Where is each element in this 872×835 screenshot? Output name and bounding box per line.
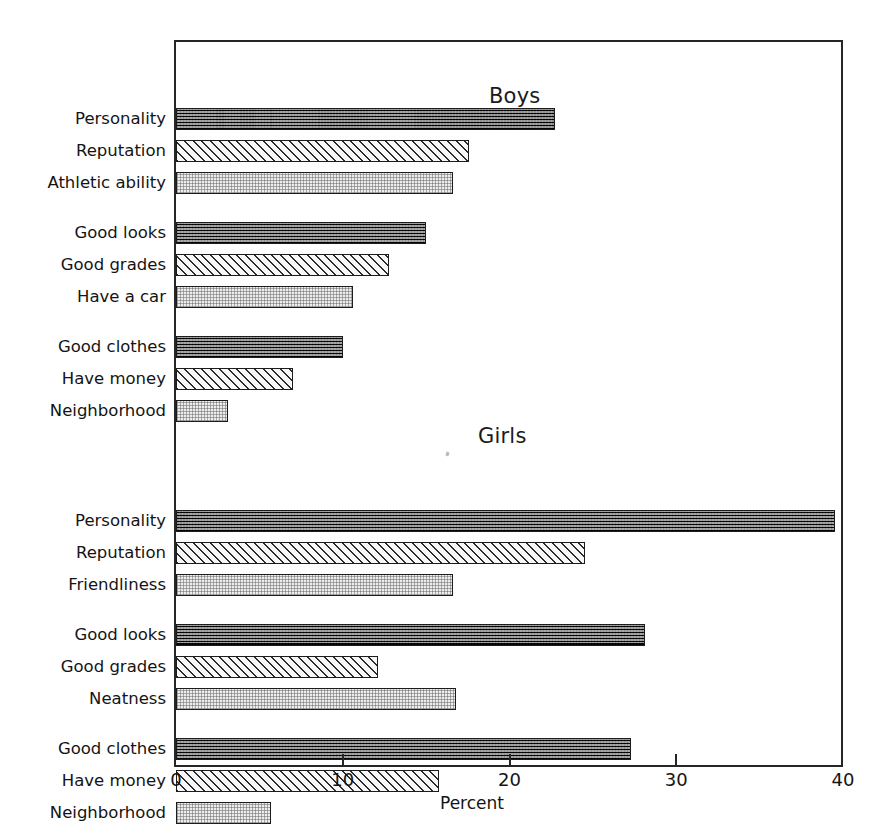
category-label: Personality xyxy=(6,109,174,129)
category-label: Good clothes xyxy=(6,337,174,357)
bar-girls-personality xyxy=(176,510,835,532)
bar-boys-reputation xyxy=(176,140,469,162)
x-axis-tick-label: 0 xyxy=(170,769,181,790)
bar-girls-good-grades xyxy=(176,656,378,678)
x-axis-tick-label: 40 xyxy=(832,769,855,790)
bar-girls-good-looks xyxy=(176,624,645,646)
bar-boys-athletic-ability xyxy=(176,172,453,194)
panel-title-boys: Boys xyxy=(489,84,540,108)
x-axis-title: Percent xyxy=(0,793,872,813)
bar-boys-good-grades xyxy=(176,254,389,276)
x-axis-tick xyxy=(509,754,511,767)
bar-boys-have-a-car xyxy=(176,286,353,308)
bar-chart: Boys Girls PersonalityReputationAthletic… xyxy=(0,0,872,835)
category-label: Athletic ability xyxy=(6,173,174,193)
category-label-column: PersonalityReputationAthletic abilityGoo… xyxy=(0,0,174,835)
x-axis-tick-label: 30 xyxy=(665,769,688,790)
bar-girls-friendliness xyxy=(176,574,453,596)
bar-boys-good-clothes xyxy=(176,336,343,358)
x-axis-title-text: Percent xyxy=(440,793,504,813)
category-label: Reputation xyxy=(6,141,174,161)
panel-title-girls: Girls xyxy=(478,424,527,448)
bar-girls-good-clothes xyxy=(176,738,631,760)
bar-girls-neatness xyxy=(176,688,456,710)
bar-girls-reputation xyxy=(176,542,585,564)
category-label: Have money xyxy=(6,369,174,389)
category-label: Good grades xyxy=(6,255,174,275)
category-label: Neighborhood xyxy=(6,401,174,421)
bar-boys-neighborhood xyxy=(176,400,228,422)
bar-boys-personality xyxy=(176,108,555,130)
category-label: Personality xyxy=(6,511,174,531)
bar-boys-good-looks xyxy=(176,222,426,244)
category-label: Good looks xyxy=(6,223,174,243)
category-label: Friendliness xyxy=(6,575,174,595)
x-axis-tick xyxy=(342,754,344,767)
category-label: Good looks xyxy=(6,625,174,645)
category-label: Have a car xyxy=(6,287,174,307)
category-label: Reputation xyxy=(6,543,174,563)
bar-girls-have-money xyxy=(176,770,439,792)
category-label: Have money xyxy=(6,771,174,791)
x-axis-tick-label: 10 xyxy=(331,769,354,790)
category-label: Neatness xyxy=(6,689,174,709)
category-label: Good clothes xyxy=(6,739,174,759)
category-label: Good grades xyxy=(6,657,174,677)
bar-boys-have-money xyxy=(176,368,293,390)
x-axis-tick xyxy=(675,754,677,767)
x-axis-tick-label: 20 xyxy=(498,769,521,790)
